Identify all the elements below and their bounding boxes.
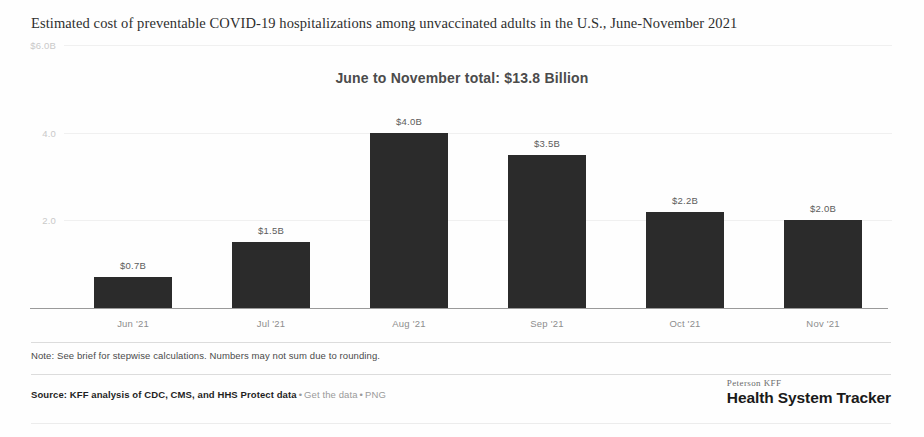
source-separator-2: • — [358, 389, 365, 400]
chart-note: Note: See brief for stepwise calculation… — [31, 350, 380, 361]
divider-footer — [31, 423, 891, 424]
x-axis-tick-label: Sep '21 — [530, 318, 563, 329]
x-axis-tick-label: Jul '21 — [257, 318, 286, 329]
divider-above-note — [31, 342, 891, 343]
divider-above-source — [31, 374, 891, 375]
bar-slot: $0.7B — [64, 45, 202, 308]
bar-value-label: $3.5B — [534, 138, 560, 149]
page-title: Estimated cost of preventable COVID-19 h… — [31, 14, 891, 32]
x-axis-tick-label: Oct '21 — [669, 318, 700, 329]
bar-value-label: $0.7B — [120, 260, 146, 271]
bar-series: $0.7B$1.5B$4.0B$3.5B$2.2B$2.0B — [64, 45, 892, 308]
source-separator-1: • — [297, 389, 304, 400]
bar-value-label: $2.2B — [672, 195, 698, 206]
x-axis-baseline — [30, 308, 888, 309]
bar[interactable] — [508, 155, 586, 308]
bar-value-label: $2.0B — [810, 203, 836, 214]
brand-logo-eyebrow: Peterson KFF — [727, 378, 891, 388]
bar[interactable] — [784, 220, 862, 308]
brand-logo-title: Health System Tracker — [727, 389, 891, 407]
bar-slot: $4.0B — [340, 45, 478, 308]
bar-slot: $3.5B — [478, 45, 616, 308]
x-axis-tick-label: Aug '21 — [392, 318, 425, 329]
chart-figure: Estimated cost of preventable COVID-19 h… — [0, 0, 924, 437]
png-link[interactable]: PNG — [365, 389, 386, 400]
bar[interactable] — [232, 242, 310, 308]
bar[interactable] — [370, 133, 448, 308]
bar[interactable] — [646, 212, 724, 308]
bar-slot: $1.5B — [202, 45, 340, 308]
bar-slot: $2.0B — [754, 45, 892, 308]
x-axis-labels: Jun '21Jul '21Aug '21Sep '21Oct '21Nov '… — [64, 318, 892, 336]
get-the-data-link[interactable]: Get the data — [304, 389, 358, 400]
bar-value-label: $4.0B — [396, 116, 422, 127]
x-axis-tick-label: Jun '21 — [117, 318, 149, 329]
y-axis-tick-label: 4.0 — [42, 127, 56, 138]
bar[interactable] — [94, 277, 172, 308]
y-axis-tick-label: 2.0 — [42, 215, 56, 226]
source-line: Source: KFF analysis of CDC, CMS, and HH… — [31, 389, 386, 400]
source-text: Source: KFF analysis of CDC, CMS, and HH… — [31, 389, 297, 400]
brand-logo: Peterson KFF Health System Tracker — [727, 378, 891, 407]
x-axis-tick-label: Nov '21 — [806, 318, 839, 329]
bar-slot: $2.2B — [616, 45, 754, 308]
bar-value-label: $1.5B — [258, 225, 284, 236]
y-axis-tick-label: $6.0B — [30, 40, 56, 51]
